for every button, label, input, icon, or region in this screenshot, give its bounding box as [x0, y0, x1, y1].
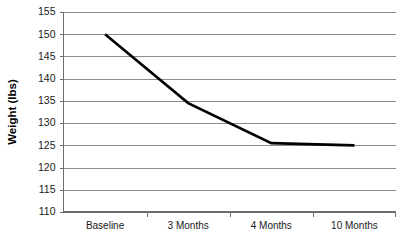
x-tick-label: Baseline	[86, 220, 125, 231]
data-series-line	[105, 34, 354, 145]
y-tick-label: 110	[39, 205, 56, 217]
y-tick-label: 150	[38, 28, 56, 40]
y-tick-label: 120	[38, 161, 56, 173]
y-tick-label: 155	[38, 5, 56, 17]
y-tick-label: 140	[38, 72, 56, 84]
x-tick-label-group: Baseline3 Months4 Months10 Months	[86, 220, 378, 231]
y-tick-label: 130	[38, 116, 56, 128]
y-tick-label: 135	[38, 94, 56, 106]
x-tick-label: 4 Months	[251, 220, 292, 231]
y-tick-label: 115	[39, 183, 56, 195]
line-chart: 110115120125130135140145150155 Baseline3…	[0, 0, 407, 247]
y-tick-label: 125	[38, 139, 56, 151]
x-tick-label: 3 Months	[168, 220, 209, 231]
y-tick-label: 145	[38, 50, 56, 62]
y-axis-title: Weight (lbs)	[6, 79, 18, 145]
y-tick-label-group: 110115120125130135140145150155	[38, 5, 56, 217]
x-tick-label: 10 Months	[331, 220, 378, 231]
chart-canvas: 110115120125130135140145150155 Baseline3…	[0, 0, 407, 247]
